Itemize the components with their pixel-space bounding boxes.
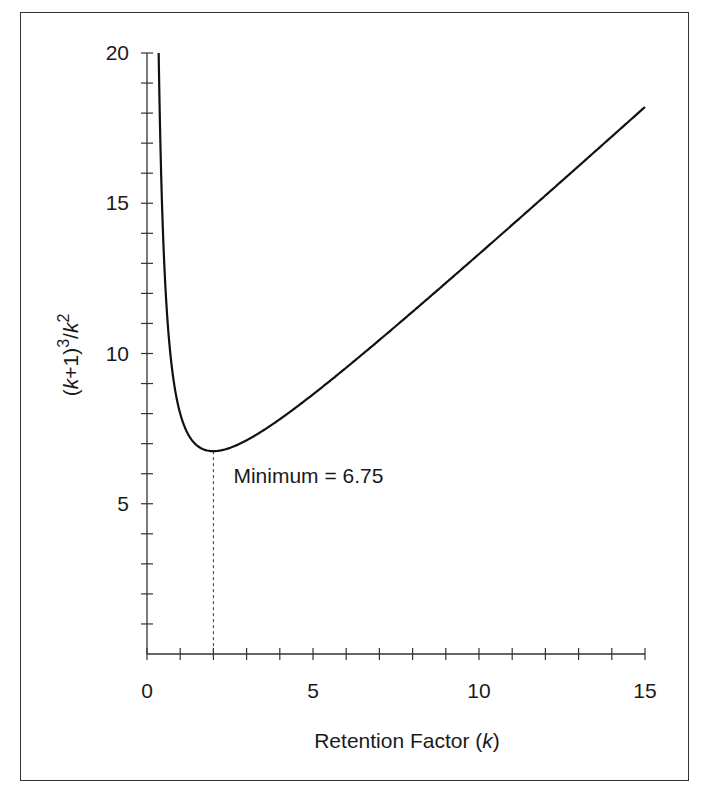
y-axis-label: (k+1)3/k2: [55, 314, 82, 397]
chart-plot: 5101520 051015 Minimum = 6.75 Retention …: [0, 0, 706, 800]
y-tick-label: 10: [106, 342, 129, 365]
minimum-annotation: Minimum = 6.75: [233, 464, 383, 487]
data-line: [159, 53, 645, 451]
x-tick-label: 0: [141, 679, 153, 702]
y-tick-label: 20: [106, 41, 129, 64]
y-tick-label: 5: [117, 492, 129, 515]
x-axis-label: Retention Factor (k): [314, 729, 500, 752]
x-tick-label: 10: [467, 679, 490, 702]
x-tick-label: 15: [633, 679, 656, 702]
x-ticks: 051015: [141, 648, 657, 702]
y-tick-label: 15: [106, 191, 129, 214]
axes: 5101520 051015: [106, 41, 657, 702]
y-ticks: 5101520: [106, 41, 153, 624]
x-tick-label: 5: [307, 679, 319, 702]
